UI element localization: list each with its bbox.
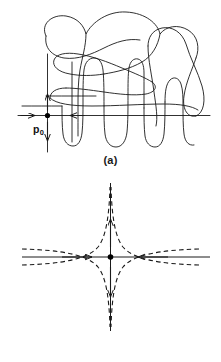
panel-b-fixed-point-dot — [108, 254, 114, 260]
trajectory-quadrant-II — [22, 249, 110, 327]
homoclinic-tangle-curve — [22, 12, 204, 147]
panel-a-point-label: p0 — [33, 124, 44, 135]
trajectory-quadrant-IV — [111, 187, 199, 265]
panel-a-point-subscript: 0 — [40, 128, 44, 137]
panel-b: p0 (b) — [0, 181, 221, 362]
figure-container: p0 (a) — [0, 0, 221, 362]
trajectory-quadrant-III — [22, 187, 110, 265]
panel-b-graphic — [0, 181, 221, 362]
trajectory-quadrant-I — [111, 249, 199, 327]
panel-a-caption: (a) — [0, 154, 221, 166]
panel-a: p0 (a) — [0, 0, 221, 181]
panel-a-fixed-point-dot — [45, 113, 50, 118]
